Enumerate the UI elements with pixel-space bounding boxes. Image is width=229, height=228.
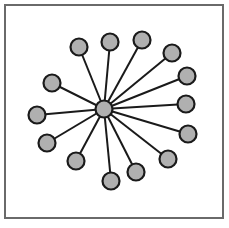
- leaf-node-n4: [164, 45, 181, 62]
- edge-hub-n8: [104, 109, 168, 159]
- nodes: [29, 32, 197, 190]
- leaf-node-n14: [44, 75, 61, 92]
- leaf-node-n7: [180, 126, 197, 143]
- leaf-node-n9: [128, 164, 145, 181]
- leaf-node-n3: [134, 32, 151, 49]
- leaf-node-n2: [102, 34, 119, 51]
- leaf-node-n1: [71, 39, 88, 56]
- edge-hub-n4: [104, 53, 172, 109]
- leaf-node-n13: [29, 107, 46, 124]
- leaf-node-n11: [68, 153, 85, 170]
- edge-hub-n1: [79, 47, 104, 109]
- hub-node: [96, 101, 113, 118]
- leaf-node-n6: [178, 96, 195, 113]
- leaf-node-n8: [160, 151, 177, 168]
- leaf-node-n5: [179, 68, 196, 85]
- leaf-node-n12: [39, 135, 56, 152]
- edge-hub-n7: [104, 109, 188, 134]
- star-graph: [0, 0, 229, 228]
- leaf-node-n10: [103, 173, 120, 190]
